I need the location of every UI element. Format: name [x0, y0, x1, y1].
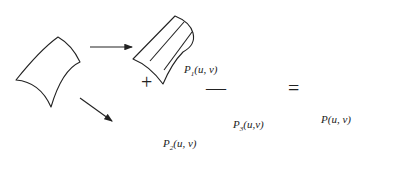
- equals-operator: =: [288, 78, 299, 98]
- diagram-canvas: + — = P1(u, v) P2(u, v) P3(u,v) P(u, v): [0, 0, 397, 173]
- result-label: P(u, v): [321, 113, 351, 125]
- plus-operator: +: [141, 72, 152, 92]
- minus-operator: —: [206, 78, 226, 98]
- p1-label: P1(u, v): [184, 63, 217, 78]
- p3-label: P3(u,v): [233, 118, 264, 133]
- input-surface: [16, 37, 80, 107]
- arrow-to-p2: [80, 98, 112, 121]
- p2-label: P2(u, v): [163, 137, 196, 152]
